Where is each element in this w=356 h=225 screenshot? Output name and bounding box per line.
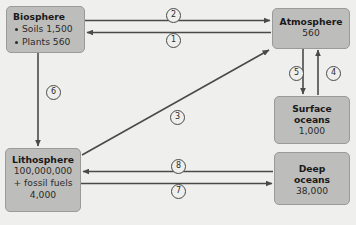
node-biosphere-title: Biosphere (13, 11, 79, 22)
carbon-cycle-diagram: Biosphere Soils 1,500 Plants 560 Atmosph… (0, 0, 356, 225)
node-atmosphere-value: 560 (273, 27, 349, 39)
node-lithosphere-title: Lithosphere (6, 154, 80, 165)
flux-label-7: 7 (171, 184, 186, 199)
node-lithosphere-extra-label: + fossil fuels (6, 177, 80, 189)
flux-label-6: 6 (46, 85, 61, 100)
node-biosphere: Biosphere Soils 1,500 Plants 560 (6, 6, 85, 53)
node-biosphere-bullet-plants: Plants 560 (13, 35, 79, 48)
bullet-dot-icon (15, 41, 18, 44)
node-lithosphere: Lithosphere 100,000,000 + fossil fuels 4… (5, 148, 81, 212)
node-deep-oceans-title-line2: oceans (275, 174, 349, 185)
flux-label-3: 3 (170, 110, 185, 125)
node-deep-oceans-title-line1: Deep (275, 163, 349, 174)
node-lithosphere-value: 100,000,000 (6, 165, 80, 177)
flux-label-4: 4 (326, 66, 341, 81)
node-lithosphere-extra-value: 4,000 (6, 189, 80, 201)
node-surface-oceans-value: 1,000 (275, 125, 349, 137)
node-biosphere-soils-text: Soils 1,500 (22, 23, 73, 34)
node-deep-oceans-value: 38,000 (275, 185, 349, 197)
bullet-dot-icon (15, 28, 18, 31)
node-biosphere-plants-text: Plants 560 (22, 36, 70, 47)
arrow-3-lithosphere-to-atmosphere (82, 50, 269, 155)
flux-label-2: 2 (166, 8, 181, 23)
node-surface-oceans: Surface oceans 1,000 (274, 96, 350, 144)
node-atmosphere: Atmosphere 560 (272, 8, 350, 49)
node-atmosphere-title: Atmosphere (273, 16, 349, 27)
flux-label-1: 1 (166, 33, 181, 48)
node-surface-oceans-title-line1: Surface (275, 103, 349, 114)
node-deep-oceans: Deep oceans 38,000 (274, 152, 350, 205)
flux-label-5: 5 (289, 66, 304, 81)
flux-label-8: 8 (171, 159, 186, 174)
node-surface-oceans-title-line2: oceans (275, 114, 349, 125)
node-biosphere-bullet-soils: Soils 1,500 (13, 22, 79, 35)
